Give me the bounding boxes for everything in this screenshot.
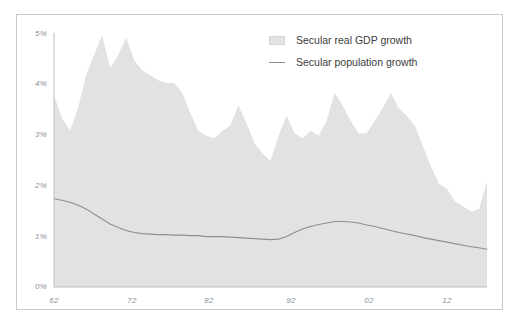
x-tick-label: 12 [434, 296, 460, 305]
x-tick-label: 72 [119, 296, 145, 305]
y-tick-label: 1% [21, 232, 47, 241]
line-swatch-icon [269, 58, 285, 67]
chart-figure: 5% 4% 3% 2% 1% 0% 62 72 82 92 02 12 Secu… [16, 14, 503, 310]
y-tick-label: 5% [21, 29, 47, 38]
legend-item-label: Secular real GDP growth [296, 34, 412, 46]
x-tick-label: 82 [196, 296, 222, 305]
legend-item-gdp: Secular real GDP growth [269, 29, 489, 51]
y-tick-label: 3% [21, 130, 47, 139]
x-tick-label: 92 [278, 296, 304, 305]
area-swatch-icon [269, 36, 285, 45]
x-tick-label: 02 [356, 296, 382, 305]
legend-item-label: Secular population growth [296, 56, 417, 68]
chart-legend: Secular real GDP growth Secular populati… [269, 29, 489, 73]
y-tick-label: 4% [21, 79, 47, 88]
y-tick-label: 0% [21, 282, 47, 291]
x-tick-label: 62 [41, 296, 67, 305]
legend-item-population: Secular population growth [269, 51, 489, 73]
y-tick-label: 2% [21, 181, 47, 190]
